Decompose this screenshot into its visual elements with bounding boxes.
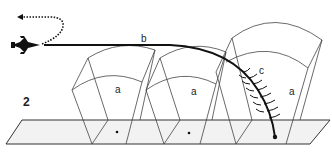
label-coverage-a-3: a bbox=[289, 87, 295, 97]
label-coverage-a-1: a bbox=[115, 85, 121, 95]
jet-aircraft-icon bbox=[11, 36, 40, 54]
diagram-canvas bbox=[0, 0, 332, 154]
dotted-arrow-icon bbox=[22, 17, 63, 44]
label-trajectory-c: c bbox=[259, 66, 264, 76]
ground-strip bbox=[6, 120, 330, 144]
label-flight-path-b: b bbox=[141, 34, 147, 44]
sensor-dot-2 bbox=[188, 132, 191, 135]
dotted-arrow-head bbox=[17, 14, 23, 20]
label-coverage-a-2: a bbox=[191, 87, 197, 97]
sensor-dot-1 bbox=[116, 131, 119, 134]
figure-number: 2 bbox=[23, 97, 30, 107]
impact-point bbox=[273, 135, 277, 139]
